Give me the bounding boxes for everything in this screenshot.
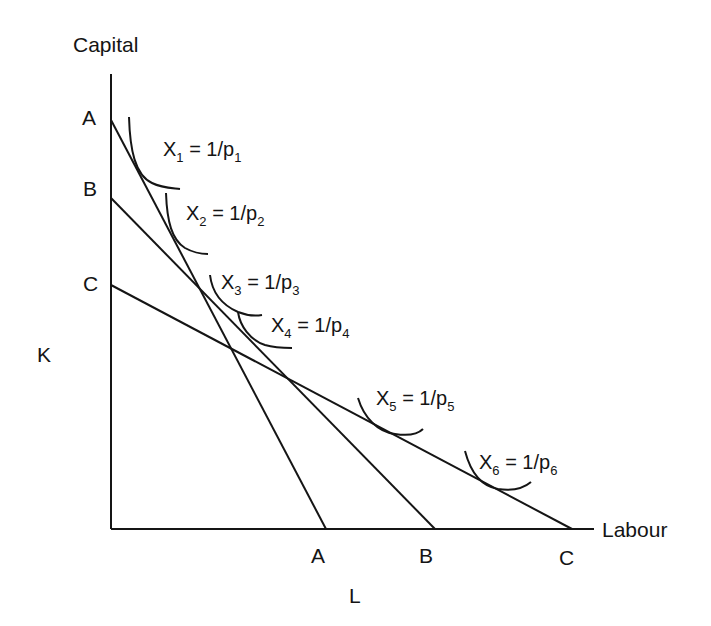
isoquant-label-x4: X4 = 1/p4 — [271, 315, 349, 335]
k-label: K — [37, 344, 51, 365]
k-intercept-label-c: C — [83, 273, 98, 294]
isoquant-label-x6: X6 = 1/p6 — [479, 452, 557, 472]
isoquant-label-x2: X2 = 1/p2 — [186, 203, 264, 223]
l-intercept-label-c: C — [559, 547, 574, 568]
isoquant-label-x3: X3 = 1/p3 — [221, 272, 299, 292]
isocost-line-b — [111, 198, 435, 529]
l-label: L — [349, 585, 361, 606]
y-axis-label: Capital — [73, 34, 138, 55]
k-intercept-label-b: B — [83, 178, 97, 199]
l-intercept-label-b: B — [419, 545, 433, 566]
l-intercept-label-a: A — [311, 545, 325, 566]
isoquant-label-x1: X1 = 1/p1 — [163, 139, 241, 159]
x-axis-label: Labour — [602, 519, 667, 540]
isoquant-label-x5: X5 = 1/p5 — [376, 388, 454, 408]
k-intercept-label-a: A — [82, 107, 96, 128]
